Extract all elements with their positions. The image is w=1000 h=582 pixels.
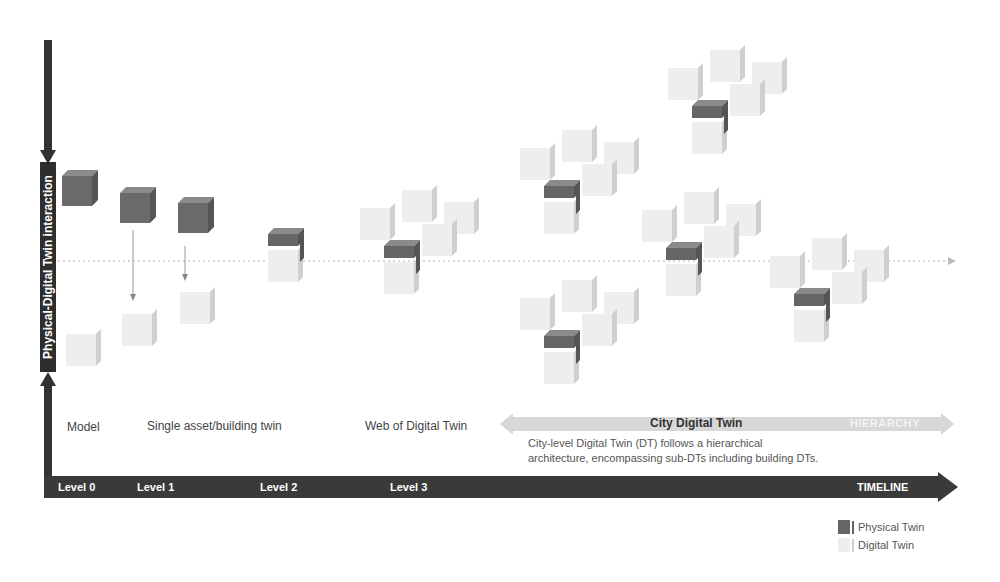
level-0-label: Level 0 — [58, 481, 95, 493]
city-twin-cluster — [668, 45, 787, 154]
hierarchy-label: HIERARCHY — [850, 417, 920, 429]
physical-twin-cube — [62, 170, 98, 206]
digital-twin-cube — [180, 287, 215, 324]
stage-label-single-asset: Single asset/building twin — [147, 419, 282, 433]
city-twin-cluster — [770, 233, 889, 342]
city-twin-cluster — [642, 187, 761, 296]
legend-item-digital: Digital Twin — [838, 536, 924, 554]
combined-twin — [268, 228, 304, 282]
description-line-2: architecture, encompassing sub-DTs inclu… — [528, 451, 928, 466]
digital-twin-cube — [122, 309, 157, 346]
timeline-label: TIMELINE — [857, 481, 908, 493]
physical-twin-icon — [838, 520, 850, 534]
web-twin-cluster — [360, 185, 479, 294]
level-3-label: Level 3 — [390, 481, 427, 493]
stage-label-model: Model — [67, 420, 100, 434]
physical-twin-cube — [178, 197, 214, 233]
city-twin-description: City-level Digital Twin (DT) follows a h… — [528, 436, 928, 466]
legend: Physical Twin Digital Twin — [838, 518, 924, 554]
digital-twin-icon — [838, 538, 850, 552]
physical-twin-cube — [120, 187, 156, 223]
city-twin-title: City Digital Twin — [650, 416, 742, 430]
legend-item-physical: Physical Twin — [838, 518, 924, 536]
digital-twin-cube — [66, 329, 101, 366]
city-arrow-right-head — [941, 413, 954, 435]
city-twin-cluster — [520, 125, 639, 234]
city-twin-cluster — [520, 275, 639, 384]
timeline-arrow-head — [938, 472, 958, 502]
description-line-1: City-level Digital Twin (DT) follows a h… — [528, 436, 928, 451]
timeline-axis — [44, 476, 939, 498]
level-1-label: Level 1 — [137, 481, 174, 493]
stage-label-web: Web of Digital Twin — [365, 419, 467, 433]
level-2-label: Level 2 — [260, 481, 297, 493]
vertical-axis-label: Physical-Digital Twin interaction — [40, 162, 56, 372]
